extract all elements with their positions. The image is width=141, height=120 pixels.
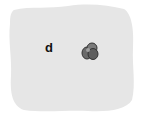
cell-cluster-icon — [79, 41, 101, 61]
micrograph-background — [0, 0, 141, 120]
panel-label: d — [45, 41, 53, 54]
